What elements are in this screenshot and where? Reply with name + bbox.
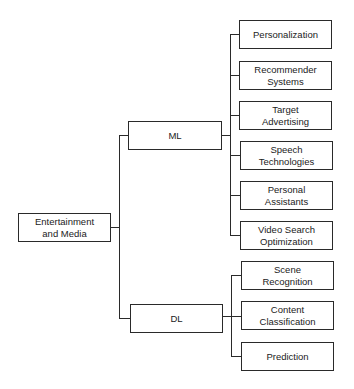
leaf-label: Target Advertising — [240, 104, 331, 128]
branch-node-ml: ML — [128, 121, 222, 150]
leaf-personalization: Personalization — [239, 20, 332, 49]
leaf-label: Prediction — [266, 351, 308, 363]
connector — [119, 135, 120, 319]
leaf-video-search-optimization: Video Search Optimization — [240, 221, 333, 250]
leaf-label: Personalization — [253, 29, 318, 41]
root-node-entertainment-media: Entertainment and Media — [18, 213, 111, 242]
connector — [231, 275, 241, 276]
leaf-label: Video Search Optimization — [241, 224, 332, 248]
leaf-scene-recognition: Scene Recognition — [241, 261, 334, 290]
connector — [230, 115, 239, 116]
leaf-prediction: Prediction — [241, 342, 334, 371]
root-label: Entertainment and Media — [35, 216, 94, 240]
branch-label-dl: DL — [170, 313, 182, 325]
leaf-speech-technologies: Speech Technologies — [240, 141, 333, 170]
connector — [231, 356, 241, 357]
connector — [119, 135, 128, 136]
connector — [230, 235, 240, 236]
connector — [231, 316, 241, 317]
leaf-label: Recommender Systems — [240, 64, 331, 88]
leaf-recommender-systems: Recommender Systems — [239, 61, 332, 90]
leaf-target-advertising: Target Advertising — [239, 101, 332, 130]
connector — [230, 195, 240, 196]
leaf-label: Personal Assistants — [241, 184, 332, 208]
branch-node-dl: DL — [130, 304, 223, 333]
leaf-label: Speech Technologies — [241, 144, 332, 168]
connector — [230, 34, 231, 236]
leaf-label: Content Classification — [242, 304, 333, 328]
leaf-label: Scene Recognition — [242, 264, 333, 288]
connector — [119, 318, 130, 319]
leaf-personal-assistants: Personal Assistants — [240, 181, 333, 210]
connector — [230, 155, 240, 156]
connector — [230, 34, 239, 35]
connector — [230, 75, 239, 76]
branch-label-ml: ML — [168, 130, 181, 142]
leaf-content-classification: Content Classification — [241, 301, 334, 330]
